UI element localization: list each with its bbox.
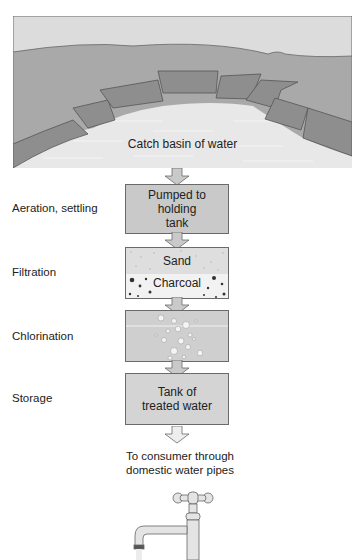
- holding-tank-box: Pumped to holding tank: [125, 184, 229, 234]
- step-label-filtration: Filtration: [12, 266, 56, 278]
- box-line: Pumped to: [148, 188, 206, 202]
- catch-basin-label: Catch basin of water: [13, 137, 352, 151]
- box-line: treated water: [142, 399, 212, 413]
- water-tap-icon: [130, 484, 230, 560]
- consumer-caption: To consumer through domestic water pipes: [80, 449, 280, 477]
- step-label-chlorination: Chlorination: [12, 330, 73, 342]
- box-line: Tank of: [158, 385, 197, 399]
- step-label-storage: Storage: [12, 392, 52, 404]
- chlorine-bubbles-icon: [126, 311, 229, 362]
- box-line: holding: [158, 202, 197, 216]
- treated-water-tank-box: Tank of treated water: [125, 373, 229, 425]
- box-line: tank: [166, 216, 189, 230]
- sand-layer-label: Sand: [163, 254, 191, 268]
- consumer-line: To consumer through: [80, 449, 280, 463]
- consumer-line: domestic water pipes: [80, 463, 280, 477]
- filtration-box: Sand Charcoal: [125, 247, 229, 299]
- chlorination-box: [125, 310, 229, 362]
- charcoal-layer-label: Charcoal: [151, 276, 203, 290]
- step-label-aeration: Aeration, settling: [12, 202, 98, 214]
- down-arrow-icon: [164, 426, 190, 444]
